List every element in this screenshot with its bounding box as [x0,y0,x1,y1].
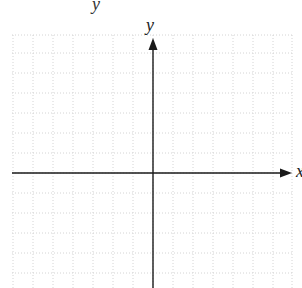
grid-lines [12,35,292,288]
y-axis-arrow-icon [149,38,158,50]
coordinate-plane: y y x [0,0,302,288]
x-axis-label: x [296,162,302,180]
y-axis-label: y [146,16,154,34]
grid-and-axes [0,0,302,288]
x-axis-arrow-icon [280,169,292,178]
axes [12,38,292,288]
